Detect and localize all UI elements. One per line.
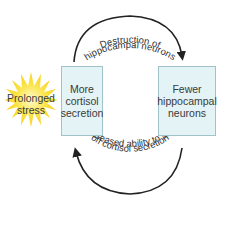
stimulus-line-1: Prolonged xyxy=(2,92,60,104)
bottom-arrow xyxy=(76,148,182,194)
right-box-line-3: neurons xyxy=(157,107,217,119)
left-box-line-1: More xyxy=(61,83,104,95)
svg-text:hippocampal neurons: hippocampal neurons xyxy=(82,39,178,62)
left-box-line-3: secretion xyxy=(61,107,104,119)
right-box-line-2: hippocampal xyxy=(157,95,217,107)
top-arrow-label-2: hippocampal neurons xyxy=(82,39,178,62)
stimulus-line-2: stress xyxy=(2,104,60,116)
fewer-neurons-box: Fewer hippocampal neurons xyxy=(158,66,216,136)
stimulus-label: Prolonged stress xyxy=(2,92,60,116)
left-box-line-2: cortisol xyxy=(61,95,104,107)
more-cortisol-box: More cortisol secretion xyxy=(61,66,103,136)
right-box-line-1: Fewer xyxy=(157,83,217,95)
